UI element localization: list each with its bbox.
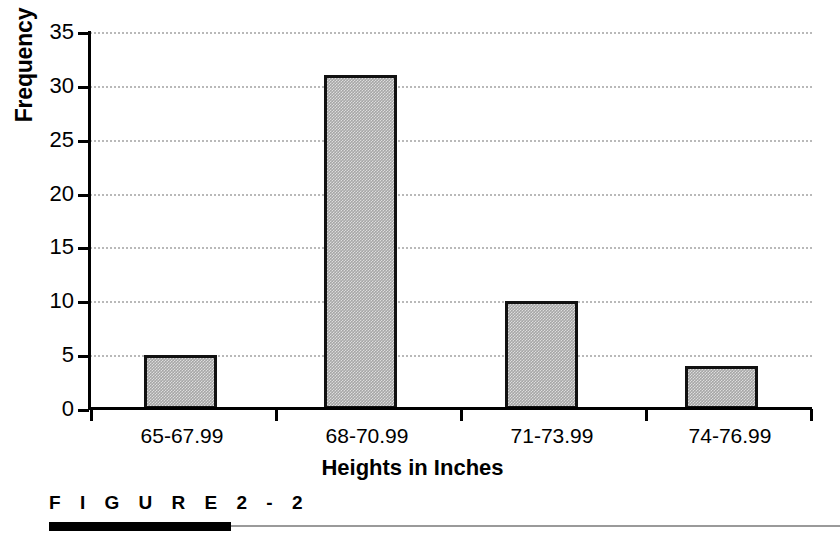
x-axis-line: [88, 407, 812, 410]
gridline-25: [90, 140, 812, 142]
x-tick-label-3: 74-76.99: [640, 424, 820, 448]
x-axis-title: Heights in Inches: [0, 455, 840, 481]
bar-category-1: [324, 75, 397, 409]
y-tick-label-15: 15: [30, 236, 74, 258]
gridline-20: [90, 194, 812, 196]
caption-rule-thick: [49, 522, 231, 531]
plot-area: [90, 32, 812, 409]
x-tick-mark-1: [275, 409, 278, 421]
gridline-30: [90, 86, 812, 88]
bar-category-0: [144, 355, 217, 409]
x-tick-label-0: 65-67.99: [92, 424, 272, 448]
x-tick-mark-2: [460, 409, 463, 421]
gridline-15: [90, 247, 812, 249]
y-tick-mark-5: [78, 355, 89, 358]
y-tick-mark-35: [78, 32, 89, 35]
x-tick-mark-3: [645, 409, 648, 421]
x-tick-label-2: 71-73.99: [462, 424, 642, 448]
x-axis-title-text: Heights in Inches: [321, 455, 503, 481]
gridline-10: [90, 301, 812, 303]
y-tick-label-25: 25: [30, 129, 74, 151]
y-tick-mark-10: [78, 301, 89, 304]
bar-category-2: [505, 301, 578, 409]
y-tick-mark-30: [78, 86, 89, 89]
bar-category-3: [685, 366, 758, 409]
gridline-35: [90, 32, 812, 34]
figure-container: Frequency 35 30 25 20 15 10 5 0: [0, 0, 840, 542]
x-tick-mark-4: [810, 409, 813, 421]
figure-caption: F I G U R E 2 - 2: [49, 492, 309, 514]
y-tick-label-20: 20: [30, 183, 74, 205]
y-tick-mark-25: [78, 140, 89, 143]
y-tick-label-35: 35: [30, 21, 74, 43]
y-tick-mark-0: [78, 409, 89, 412]
y-tick-label-0: 0: [30, 398, 74, 420]
y-tick-mark-15: [78, 247, 89, 250]
y-tick-label-30: 30: [30, 75, 74, 97]
x-tick-label-1: 68-70.99: [277, 424, 457, 448]
y-tick-label-5: 5: [30, 344, 74, 366]
y-tick-label-10: 10: [30, 290, 74, 312]
x-tick-mark-0: [90, 409, 93, 421]
caption-rule-thin: [231, 525, 840, 527]
y-tick-mark-20: [78, 194, 89, 197]
